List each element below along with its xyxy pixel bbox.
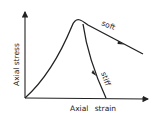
stress-strain-diagram: Axial stress Axial strain soft stiff	[0, 0, 157, 118]
stiff-branch	[83, 24, 106, 98]
soft-label: soft	[100, 19, 116, 33]
y-axis-label: Axial stress	[12, 43, 21, 86]
stiff-label: stiff	[99, 71, 113, 88]
x-axis-label: Axial strain	[70, 104, 116, 113]
x-axis	[25, 98, 148, 99]
pre-peak-curve	[25, 20, 80, 98]
